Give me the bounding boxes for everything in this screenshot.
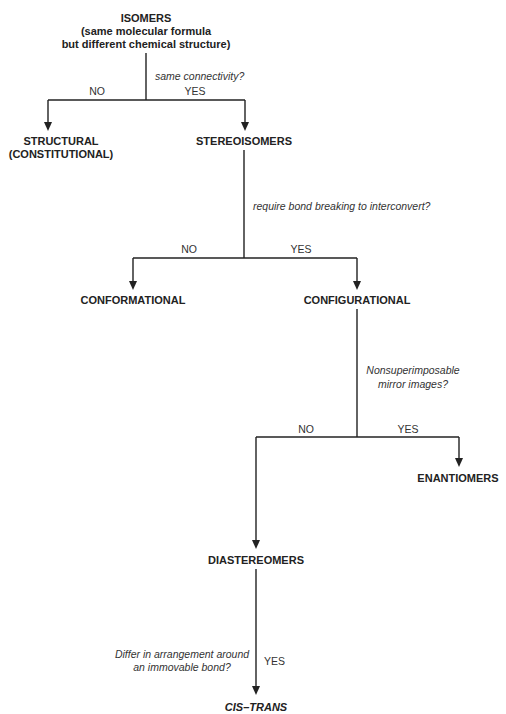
branch-mirror-images: Nonsuperimposable mirror images? NO YES (252, 309, 463, 549)
node-conformational: CONFORMATIONAL (81, 294, 186, 306)
arrow-down-icon (252, 686, 260, 695)
node-diastereomers: DIASTEREOMERS (208, 554, 304, 566)
label-yes: YES (264, 655, 285, 667)
arrow-down-icon (241, 122, 249, 131)
node-isomers-subtitle-2: but different chemical structure) (62, 38, 231, 50)
arrow-down-icon (455, 458, 463, 467)
branch-bond-breaking: require bond breaking to interconvert? N… (129, 150, 431, 290)
arrow-down-icon (252, 540, 260, 549)
node-cis-trans: CIS–TRANS (225, 701, 288, 713)
label-yes: YES (184, 85, 205, 97)
question-mirror-images-1: Nonsuperimposable (366, 364, 460, 376)
question-mirror-images-2: mirror images? (378, 378, 448, 390)
question-bond-breaking: require bond breaking to interconvert? (253, 200, 431, 212)
isomer-flowchart: ISOMERS (same molecular formula but diff… (0, 0, 506, 714)
node-configurational: CONFIGURATIONAL (304, 294, 411, 306)
label-no: NO (181, 243, 197, 255)
node-isomers-subtitle-1: (same molecular formula (81, 25, 212, 37)
node-stereoisomers: STEREOISOMERS (196, 135, 292, 147)
node-isomers-label: ISOMERS (121, 12, 172, 24)
node-structural: STRUCTURAL (CONSTITUTIONAL) (9, 135, 114, 160)
node-isomers: ISOMERS (same molecular formula but diff… (62, 12, 231, 50)
arrow-down-icon (129, 281, 137, 290)
question-immovable-bond-2: an immovable bond? (133, 661, 231, 673)
node-structural-sublabel: (CONSTITUTIONAL) (9, 148, 114, 160)
branch-same-connectivity: same connectivity? NO YES (44, 53, 249, 131)
branch-immovable-bond: Differ in arrangement around an immovabl… (115, 569, 285, 695)
question-same-connectivity: same connectivity? (155, 70, 244, 82)
label-yes: YES (397, 423, 418, 435)
arrow-down-icon (44, 122, 52, 131)
question-immovable-bond-1: Differ in arrangement around (115, 648, 250, 660)
label-yes: YES (290, 243, 311, 255)
node-structural-label: STRUCTURAL (23, 135, 98, 147)
arrow-down-icon (353, 281, 361, 290)
node-enantiomers: ENANTIOMERS (417, 472, 498, 484)
label-no: NO (89, 85, 105, 97)
label-no: NO (298, 423, 314, 435)
